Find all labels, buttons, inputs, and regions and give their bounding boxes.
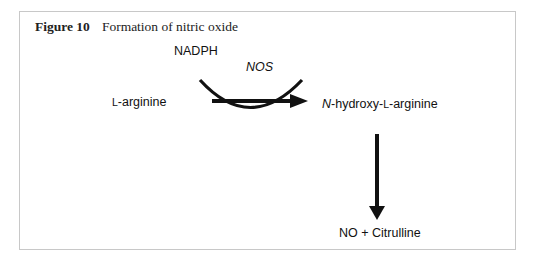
substrate-label: L-arginine	[112, 95, 166, 109]
arrowhead-1	[290, 94, 308, 108]
cofactor-arc	[200, 80, 302, 108]
arrowhead-2	[369, 206, 385, 220]
cofactor-label: NADPH	[174, 44, 218, 58]
enzyme-label: NOS	[246, 60, 273, 74]
reaction-diagram	[0, 0, 537, 260]
product-label: NO + Citrulline	[339, 226, 421, 240]
intermediate-label: N-hydroxy-L-arginine	[322, 97, 438, 111]
